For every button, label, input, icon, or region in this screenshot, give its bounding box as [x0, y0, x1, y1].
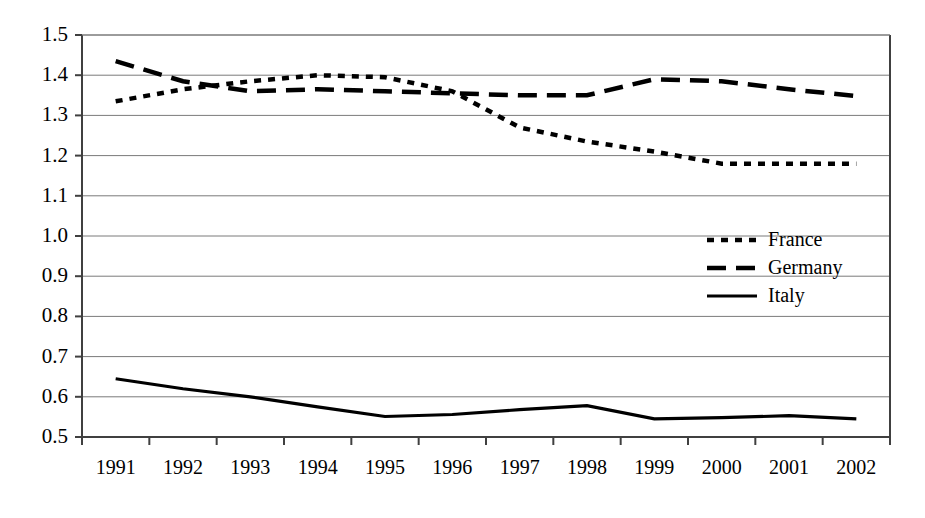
- y-tick-label-1-2: 1.2: [6, 145, 68, 166]
- series-line-france: [116, 75, 857, 163]
- x-tick-label-1994: 1994: [284, 457, 352, 477]
- legend-label-germany: Germany: [768, 257, 842, 277]
- x-tick-label-1998: 1998: [553, 457, 621, 477]
- y-tick-label-0-8: 0.8: [6, 305, 68, 326]
- x-tick-marks-group: [82, 437, 890, 445]
- y-tick-label-0-7: 0.7: [6, 346, 68, 367]
- x-tick-label-1995: 1995: [351, 457, 419, 477]
- x-tick-label-1991: 1991: [82, 457, 150, 477]
- x-tick-label-1999: 1999: [620, 457, 688, 477]
- y-tick-label-0-9: 0.9: [6, 265, 68, 286]
- x-tick-label-1993: 1993: [216, 457, 284, 477]
- y-tick-label-1-4: 1.4: [6, 64, 68, 85]
- series-line-italy: [116, 379, 857, 419]
- y-tick-marks-group: [75, 35, 82, 437]
- x-tick-label-1992: 1992: [149, 457, 217, 477]
- line-chart: 1.51.41.31.21.11.00.90.80.70.60.5 199119…: [0, 0, 925, 518]
- y-tick-label-1-5: 1.5: [6, 24, 68, 45]
- x-tick-label-1996: 1996: [418, 457, 486, 477]
- y-tick-label-0-6: 0.6: [6, 386, 68, 407]
- x-tick-label-1997: 1997: [486, 457, 554, 477]
- x-tick-label-2001: 2001: [755, 457, 823, 477]
- y-tick-label-1-3: 1.3: [6, 104, 68, 125]
- y-tick-label-1-1: 1.1: [6, 185, 68, 206]
- data-series-group: [116, 61, 857, 419]
- legend-swatches-group: [707, 240, 757, 296]
- x-tick-label-2002: 2002: [822, 457, 890, 477]
- y-tick-label-0-5: 0.5: [6, 426, 68, 447]
- series-line-germany: [116, 61, 857, 96]
- y-tick-label-1-0: 1.0: [6, 225, 68, 246]
- legend-label-france: France: [768, 229, 822, 249]
- x-tick-label-2000: 2000: [688, 457, 756, 477]
- legend-label-italy: Italy: [768, 285, 805, 305]
